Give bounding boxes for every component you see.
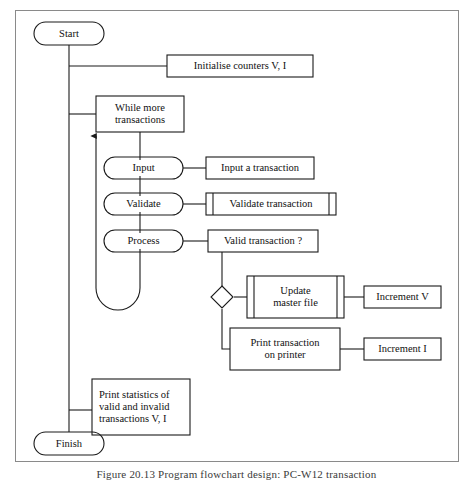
node-process-step-shape	[104, 230, 183, 252]
node-print-transaction-shape	[230, 328, 340, 370]
node-initialise-shape	[167, 55, 313, 77]
edge-loop-back	[96, 136, 140, 310]
flowchart-figure: Start Initialise counters V, I While mor…	[0, 0, 473, 483]
node-update-master-shape	[247, 276, 344, 318]
node-while-shape	[96, 96, 184, 132]
node-validate-step-shape	[104, 193, 183, 215]
figure-caption: Figure 20.13 Program flowchart design: P…	[0, 468, 473, 483]
node-validate-action-shape	[206, 193, 336, 215]
node-print-statistics-shape	[92, 379, 190, 435]
node-input-step-shape	[104, 157, 183, 179]
edge-decision-to-print	[222, 309, 230, 349]
node-increment-v-shape	[364, 286, 441, 308]
node-increment-i-shape	[364, 338, 441, 360]
node-valid-question-shape	[208, 230, 318, 252]
flowchart-canvas	[0, 0, 473, 483]
node-input-action-shape	[206, 157, 314, 179]
node-start-shape	[34, 22, 104, 45]
node-decision-shape	[211, 286, 233, 308]
